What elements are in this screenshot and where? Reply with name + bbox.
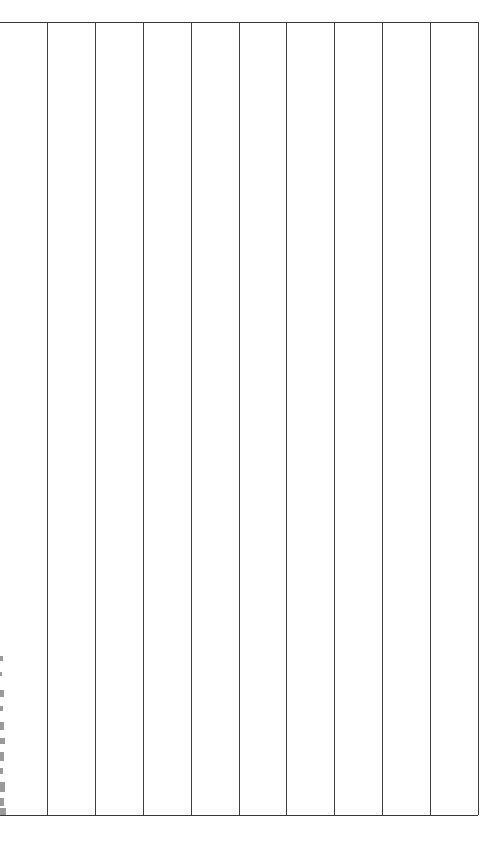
table-bottom-rule xyxy=(0,815,478,816)
empty-table[interactable] xyxy=(0,22,478,815)
clipped-glyph-fragment xyxy=(0,782,5,792)
clipped-glyph-fragment xyxy=(0,722,4,730)
table-cell[interactable] xyxy=(286,22,334,815)
table-cell[interactable] xyxy=(143,22,191,815)
clipped-glyph-fragment xyxy=(0,752,4,761)
document-page xyxy=(0,0,499,847)
clipped-glyph-fragment xyxy=(0,672,2,676)
column-rule-10 xyxy=(478,22,479,815)
table-cell[interactable] xyxy=(47,22,95,815)
table-cell[interactable] xyxy=(0,22,47,815)
table-cell[interactable] xyxy=(382,22,430,815)
clipped-glyph-fragment xyxy=(0,738,5,744)
table-cell[interactable] xyxy=(334,22,382,815)
clipped-text-fragments xyxy=(0,0,6,847)
clipped-glyph-fragment xyxy=(0,690,4,697)
clipped-glyph-fragment xyxy=(0,768,3,774)
clipped-glyph-fragment xyxy=(0,656,3,661)
table-cell[interactable] xyxy=(95,22,143,815)
clipped-glyph-fragment xyxy=(0,798,4,806)
table-cell[interactable] xyxy=(430,22,478,815)
table-cell[interactable] xyxy=(239,22,286,815)
clipped-glyph-fragment xyxy=(0,808,6,815)
clipped-glyph-fragment xyxy=(0,706,3,711)
table-cell[interactable] xyxy=(191,22,239,815)
